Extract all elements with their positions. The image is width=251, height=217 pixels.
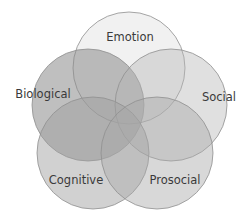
venn-diagram: Emotion Biological Social Cognitive Pros… bbox=[0, 0, 251, 217]
label-prosocial: Prosocial bbox=[149, 173, 200, 187]
label-emotion: Emotion bbox=[106, 30, 154, 44]
circle-prosocial bbox=[101, 97, 213, 209]
label-cognitive: Cognitive bbox=[49, 173, 103, 187]
label-social: Social bbox=[202, 90, 236, 104]
label-biological: Biological bbox=[15, 87, 70, 101]
